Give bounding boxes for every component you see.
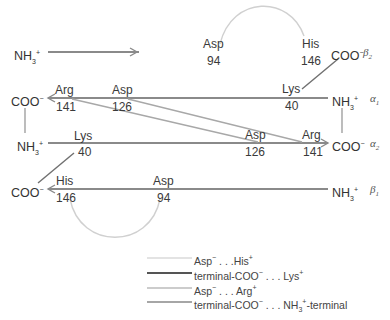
beta1-his-number: 146 bbox=[56, 192, 76, 204]
beta2-his-name: His bbox=[302, 38, 319, 50]
alpha1-asp-number: 126 bbox=[112, 101, 132, 113]
alpha1-arg-name: Arg bbox=[55, 84, 74, 96]
alpha2-asp-number: 126 bbox=[245, 146, 265, 158]
legend-item-coo-lys: terminal-COO− . . . Lys+ bbox=[194, 267, 303, 282]
beta1-c-terminal: COO− bbox=[11, 183, 44, 200]
beta2-n-terminal: NH3+ bbox=[14, 46, 40, 68]
alpha1-lys-number: 40 bbox=[285, 100, 298, 112]
alpha2-lys-number: 40 bbox=[78, 146, 91, 158]
alpha1-c-terminal: COO− bbox=[11, 92, 44, 109]
beta2-asp-his-arc bbox=[220, 6, 304, 44]
alpha1-arg-alpha2-asp-link bbox=[72, 99, 258, 142]
alpha2-asp-name: Asp bbox=[245, 129, 266, 141]
beta1-n-terminal: NH3+ bbox=[332, 183, 358, 205]
alpha1-asp-name: Asp bbox=[112, 84, 133, 96]
alpha2-chain-label: α2 bbox=[370, 137, 379, 152]
beta2-asp-number: 94 bbox=[207, 55, 220, 67]
beta1-asp-number: 94 bbox=[157, 192, 170, 204]
beta2-chain-label: β2 bbox=[363, 46, 372, 61]
alpha2-arg-number: 141 bbox=[303, 146, 323, 158]
beta1-asp-name: Asp bbox=[153, 175, 174, 187]
alpha2-arg-name: Arg bbox=[302, 129, 321, 141]
alpha1-arg-number: 141 bbox=[56, 101, 76, 113]
beta1-his-name: His bbox=[56, 175, 73, 187]
legend-item-asp-arg: Asp− . . . Arg+ bbox=[194, 282, 256, 297]
alpha2-c-terminal: COO− bbox=[332, 137, 365, 154]
alpha1-lys-name: Lys bbox=[282, 83, 300, 95]
legend-item-coo-nh3: terminal-COO− . . . NH3+-terminal bbox=[194, 296, 347, 315]
beta1-asp-his-arc bbox=[70, 199, 160, 237]
alpha1-n-terminal: NH3+ bbox=[332, 92, 358, 114]
alpha1-asp-alpha2-arg-link bbox=[128, 99, 302, 142]
beta1-chain-label: β1 bbox=[370, 183, 379, 198]
legend-item-asp-his: Asp− . . .His+ bbox=[194, 252, 253, 267]
alpha2-n-terminal: NH3+ bbox=[17, 137, 43, 159]
alpha2-lys-name: Lys bbox=[74, 130, 92, 142]
beta2-c-terminal: COO− bbox=[331, 46, 364, 63]
beta2-asp-name: Asp bbox=[203, 38, 224, 50]
beta2-his-number: 146 bbox=[301, 55, 321, 67]
alpha1-chain-label: α1 bbox=[370, 92, 379, 107]
